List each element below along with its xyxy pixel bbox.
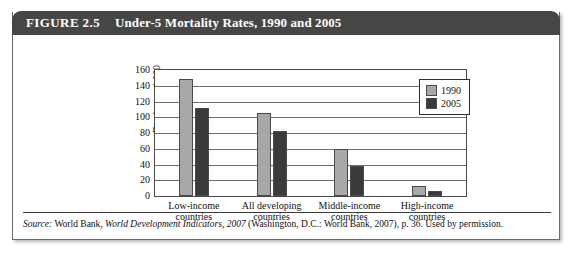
- source-part2: (Washington, D.C.: World Bank, 2007), p.…: [246, 219, 503, 229]
- bar-1990-1: [257, 113, 271, 196]
- chart-area: Deaths per 1,000 live births 02040608010…: [13, 36, 559, 214]
- figure-title: Under-5 Mortality Rates, 1990 and 2005: [115, 15, 341, 31]
- figure-header-bar: FIGURE 2.5 Under-5 Mortality Rates, 1990…: [12, 11, 560, 35]
- bar-2005-1: [273, 131, 287, 196]
- legend-swatch-1990-icon: [426, 85, 437, 96]
- y-tick-label: 120: [116, 97, 150, 107]
- y-tick-label: 20: [116, 175, 150, 185]
- bar-1990-2: [334, 149, 348, 196]
- legend-swatch-2005-icon: [426, 98, 437, 109]
- source-divider: [23, 212, 551, 213]
- y-tick-label: 140: [116, 81, 150, 91]
- figure-card: FIGURE 2.5 Under-5 Mortality Rates, 1990…: [12, 12, 560, 240]
- legend-label-1990: 1990: [441, 86, 461, 96]
- legend-item-1990: 1990: [426, 84, 461, 97]
- source-note: Source: World Bank, World Development In…: [23, 218, 551, 230]
- legend-item-2005: 2005: [426, 97, 461, 110]
- y-tick-label: 100: [116, 112, 150, 122]
- y-tick-label: 60: [116, 144, 150, 154]
- y-tick-label: 0: [116, 191, 150, 201]
- y-tick-label: 160: [116, 65, 150, 75]
- source-prefix: Source:: [23, 219, 52, 229]
- y-tick-label: 40: [116, 160, 150, 170]
- bar-1990-0: [179, 79, 193, 196]
- y-tick-label: 80: [116, 128, 150, 138]
- plot-area: 020406080100120140160 Low-income countri…: [154, 69, 467, 197]
- bar-2005-2: [350, 166, 364, 196]
- chart-legend: 1990 2005: [419, 79, 470, 115]
- bar-2005-3: [428, 191, 442, 197]
- source-publication-title: World Development Indicators, 2007: [105, 219, 246, 229]
- bar-2005-0: [195, 108, 209, 196]
- bar-1990-3: [412, 186, 426, 196]
- figure-number: FIGURE 2.5: [26, 15, 100, 31]
- source-part1: World Bank,: [52, 219, 105, 229]
- legend-label-2005: 2005: [441, 99, 461, 109]
